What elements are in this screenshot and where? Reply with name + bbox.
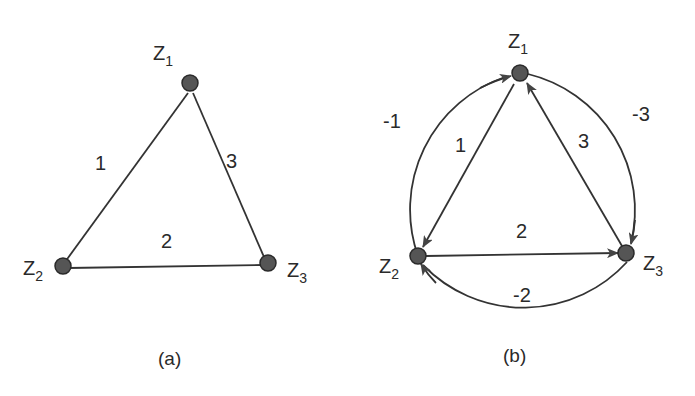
arc-b-neg1 (410, 77, 505, 256)
arc-b-neg3-arrow (631, 220, 635, 244)
edge-a-2 (68, 265, 262, 268)
edge-a-3 (193, 93, 264, 257)
diagram-a: Z1 Z2 Z3 1 2 3 (a) (23, 42, 307, 369)
arc-b-neg1-arrow (480, 76, 511, 88)
arc-b-neg2-arrow (421, 264, 436, 283)
label-a-z1: Z1 (153, 42, 173, 69)
label-b-z2: Z2 (379, 255, 399, 282)
node-b-z2 (410, 248, 426, 264)
edge-label-a-3: 3 (226, 150, 237, 172)
label-b-z3: Z3 (643, 252, 663, 279)
edge-b-1 (423, 84, 514, 247)
edge-label-b-neg3: -3 (632, 103, 650, 125)
edge-label-b-neg1: -1 (383, 110, 401, 132)
edge-label-b-3: 3 (578, 130, 589, 152)
node-b-z1 (512, 65, 528, 81)
label-b-z1: Z1 (508, 30, 528, 57)
edge-label-b-2: 2 (516, 220, 527, 242)
edge-b-2 (426, 253, 618, 256)
caption-a: (a) (158, 348, 181, 369)
caption-b: (b) (503, 345, 526, 366)
arc-b-neg3 (528, 74, 635, 243)
edge-label-a-2: 2 (161, 230, 172, 252)
node-a-z1 (182, 75, 198, 91)
edge-label-a-1: 1 (95, 152, 106, 174)
label-a-z3: Z3 (287, 259, 307, 286)
diagram-b: Z1 Z2 Z3 1 2 3 -1 -2 -3 (b) (379, 30, 663, 366)
edge-b-3 (527, 83, 622, 246)
label-a-z2: Z2 (23, 257, 43, 284)
node-a-z2 (55, 258, 71, 274)
edge-label-b-1: 1 (455, 134, 466, 156)
node-a-z3 (260, 255, 276, 271)
edge-label-b-neg2: -2 (513, 284, 531, 306)
node-b-z3 (618, 245, 634, 261)
